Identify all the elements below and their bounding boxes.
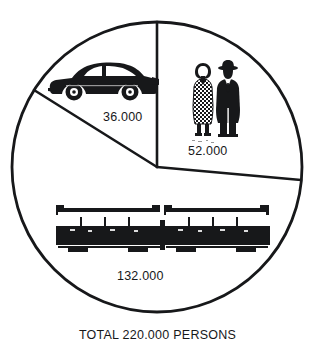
pictorial-pie-chart-figure: 36.000 52.000 132.000 TOTAL 220.000 PERS… [0,0,315,354]
rail-carriage-left [56,205,162,252]
train-icon [54,198,272,260]
rail-carriage-right [164,205,270,252]
woman-figure [193,63,213,136]
man-figure [216,60,240,137]
chart-total-caption: TOTAL 220.000 PERSONS [0,328,315,342]
slice-label-car: 36.000 [103,110,142,124]
slice-label-walk: 52.000 [188,144,227,158]
pie-chart-svg [0,0,315,354]
car-icon [46,55,160,103]
slice-label-rail: 132.000 [117,269,164,283]
pedestrians-icon [186,58,248,146]
